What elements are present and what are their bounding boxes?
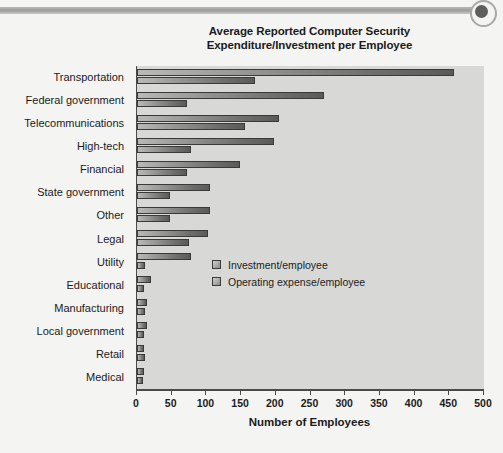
x-tick-400	[414, 389, 415, 395]
x-tick-label-400: 400	[405, 397, 423, 409]
bar-group-telecommunications	[137, 112, 484, 135]
x-tick-label-100: 100	[197, 397, 215, 409]
decorative-dot-icon	[475, 5, 488, 18]
bar-investment	[137, 368, 144, 375]
plot-area	[136, 66, 484, 389]
y-axis-label-medical: Medical	[0, 366, 130, 389]
bar-investment	[137, 345, 144, 352]
bar-investment	[137, 253, 191, 260]
bar-operating	[137, 239, 189, 246]
y-axis-label-financial: Financial	[0, 158, 130, 181]
bar-operating	[137, 285, 144, 292]
bar-group-federal-government	[137, 89, 484, 112]
bar-investment	[137, 92, 324, 99]
legend-swatch-icon	[212, 277, 221, 286]
bar-investment	[137, 138, 274, 145]
y-axis-label-state-government: State government	[0, 181, 130, 204]
x-tick-300	[344, 389, 345, 395]
x-tick-label-300: 300	[335, 397, 353, 409]
y-axis-label-high-tech: High-tech	[0, 135, 130, 158]
y-axis-label-utility: Utility	[0, 251, 130, 274]
y-axis-label-telecommunications: Telecommunications	[0, 112, 130, 135]
bar-operating	[137, 146, 191, 153]
bar-operating	[137, 377, 143, 384]
y-axis-label-transportation: Transportation	[0, 66, 130, 89]
bar-investment	[137, 299, 147, 306]
bar-group-other	[137, 204, 484, 227]
bar-operating	[137, 77, 255, 84]
bar-investment	[137, 115, 279, 122]
x-tick-450	[448, 389, 449, 395]
bar-operating	[137, 169, 187, 176]
x-tick-label-0: 0	[133, 397, 139, 409]
x-tick-150	[240, 389, 241, 395]
bar-investment	[137, 184, 210, 191]
x-tick-100	[205, 389, 206, 395]
y-axis-label-legal: Legal	[0, 228, 130, 251]
bar-group-retail	[137, 343, 484, 366]
bar-group-high-tech	[137, 135, 484, 158]
bar-operating	[137, 215, 170, 222]
legend-label: Investment/employee	[228, 259, 328, 271]
bar-operating	[137, 123, 245, 130]
bar-group-medical	[137, 366, 484, 389]
x-tick-label-350: 350	[370, 397, 388, 409]
bar-investment	[137, 322, 147, 329]
y-axis-label-federal-government: Federal government	[0, 89, 130, 112]
bar-investment	[137, 276, 151, 283]
bar-operating	[137, 262, 145, 269]
bar-operating	[137, 308, 145, 315]
legend-item-operating-expense: Operating expense/employee	[212, 274, 392, 289]
legend-item-investment: Investment/employee	[212, 257, 392, 272]
bar-operating	[137, 100, 187, 107]
bar-group-transportation	[137, 66, 484, 89]
bar-investment	[137, 230, 208, 237]
bar-operating	[137, 331, 144, 338]
y-axis-label-retail: Retail	[0, 343, 130, 366]
bar-group-manufacturing	[137, 297, 484, 320]
bar-group-financial	[137, 158, 484, 181]
bar-group-local-government	[137, 320, 484, 343]
legend-swatch-icon	[212, 260, 221, 269]
x-tick-label-50: 50	[165, 397, 177, 409]
y-axis-label-educational: Educational	[0, 274, 130, 297]
x-tick-50	[171, 389, 172, 395]
x-tick-250	[310, 389, 311, 395]
x-tick-200	[275, 389, 276, 395]
x-tick-label-500: 500	[474, 397, 492, 409]
chart-title-line-2: Expenditure/Investment per Employee	[136, 38, 483, 52]
x-axis-title: Number of Employees	[136, 416, 483, 428]
decorative-rule-icon	[0, 7, 478, 14]
y-axis-label-other: Other	[0, 204, 130, 227]
bar-group-legal	[137, 228, 484, 251]
bar-operating	[137, 354, 145, 361]
legend-label: Operating expense/employee	[228, 276, 365, 288]
bar-investment	[137, 207, 210, 214]
x-tick-label-250: 250	[301, 397, 319, 409]
bar-investment	[137, 161, 240, 168]
chart-legend: Investment/employeeOperating expense/emp…	[212, 257, 392, 291]
x-tick-label-450: 450	[440, 397, 458, 409]
bar-group-state-government	[137, 181, 484, 204]
x-tick-350	[379, 389, 380, 395]
chart-title-line-1: Average Reported Computer Security	[136, 24, 483, 38]
bar-operating	[137, 192, 170, 199]
chart-figure: Average Reported Computer Security Expen…	[0, 24, 503, 453]
x-tick-label-200: 200	[266, 397, 284, 409]
y-axis-label-manufacturing: Manufacturing	[0, 297, 130, 320]
y-axis-label-local-government: Local government	[0, 320, 130, 343]
x-tick-0	[136, 389, 137, 395]
chart-title: Average Reported Computer Security Expen…	[136, 24, 483, 52]
y-axis-category-labels: TransportationFederal governmentTelecomm…	[0, 66, 130, 389]
x-tick-label-150: 150	[231, 397, 249, 409]
x-tick-500	[483, 389, 484, 395]
bar-investment	[137, 69, 454, 76]
